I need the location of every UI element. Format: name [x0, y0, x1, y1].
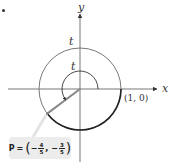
point-name: P — [9, 144, 15, 153]
y-sign: − — [51, 144, 58, 153]
highlight-arc — [47, 89, 121, 130]
outer-arc-t-label: t — [69, 36, 73, 47]
y-numerator: 3 — [59, 142, 65, 149]
radius-to-p — [47, 89, 80, 114]
point-p-marker — [46, 112, 49, 115]
y-axis-label: y — [78, 2, 84, 13]
x-sign: − — [31, 144, 38, 153]
y-denominator: 5 — [60, 149, 64, 155]
x-axis-label: x — [162, 83, 168, 94]
y-coordinate-fraction: 3 5 — [59, 142, 65, 155]
equals-sign: = — [17, 144, 24, 153]
point-p-label: P = ( − 4 5 , − 3 5 ) — [9, 137, 71, 159]
inner-arc-t-label: t — [71, 61, 75, 72]
x-denominator: 5 — [39, 149, 43, 155]
x-numerator: 4 — [38, 142, 44, 149]
x-coordinate-fraction: 4 5 — [38, 142, 44, 155]
label-leader-line — [33, 115, 46, 137]
close-paren: ) — [66, 141, 71, 155]
comma: , — [45, 144, 48, 153]
start-point-label: (1, 0) — [124, 94, 148, 103]
